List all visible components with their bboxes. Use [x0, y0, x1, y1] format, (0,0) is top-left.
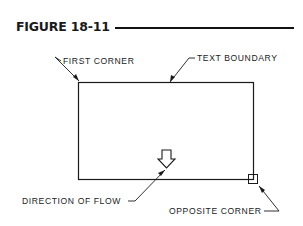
opposite-corner-label: OPPOSITE CORNER [169, 206, 262, 216]
direction-of-flow-leader [128, 170, 165, 201]
first-corner-label: FIRST CORNER [63, 56, 135, 66]
opposite-corner-leader [259, 186, 279, 211]
down-arrow-icon [158, 150, 175, 168]
text-boundary-label: TEXT BOUNDARY [197, 53, 278, 63]
diagram-canvas [0, 0, 303, 226]
direction-of-flow-label: DIRECTION OF FLOW [22, 196, 121, 206]
text-boundary-leader [170, 58, 195, 82]
